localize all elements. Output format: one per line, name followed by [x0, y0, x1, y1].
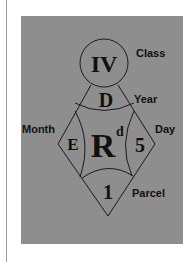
day-label: Day	[155, 123, 176, 135]
code-diagram: IV D E R d 5 1 Class Year Month Day Parc…	[0, 0, 191, 262]
class-code: IV	[91, 51, 118, 77]
month-label: Month	[22, 123, 55, 135]
parcel-code: 1	[103, 181, 113, 203]
day-code: 5	[135, 134, 145, 156]
class-label: Class	[136, 47, 165, 59]
year-label: Year	[134, 93, 158, 105]
center-superscript: d	[116, 124, 124, 139]
day-arc	[125, 111, 134, 176]
center-code: R	[91, 127, 116, 164]
year-code: D	[99, 89, 113, 111]
parcel-label: Parcel	[132, 187, 165, 199]
parcel-arc	[82, 168, 133, 178]
month-code: E	[67, 135, 78, 154]
